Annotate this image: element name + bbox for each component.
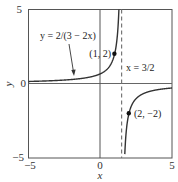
y-axis-label: y	[2, 81, 14, 87]
x-axis-label: x	[97, 169, 103, 181]
point-2-neg2	[127, 111, 131, 115]
curve-right-branch	[125, 88, 172, 154]
asymptote-label: x = 3/2	[126, 62, 154, 73]
curve-label: y = 2/(3 − 2x)	[40, 30, 96, 42]
arrowhead-icon	[71, 70, 75, 77]
y-tick-zero: 0	[21, 77, 27, 89]
curve-label-arrow	[69, 44, 74, 72]
x-tick-max: 5	[169, 159, 175, 171]
chart-canvas: 5 0 −5 −5 0 5 x y y = 2/(3 − 2x) (1, 2) …	[0, 0, 178, 182]
point-1-label: (1, 2)	[89, 48, 111, 60]
point-1-2	[112, 52, 116, 56]
y-tick-min: −5	[12, 151, 24, 163]
y-tick-max: 5	[17, 3, 23, 15]
x-tick-min: −5	[24, 159, 36, 171]
point-2-label: (2, −2)	[134, 108, 161, 120]
